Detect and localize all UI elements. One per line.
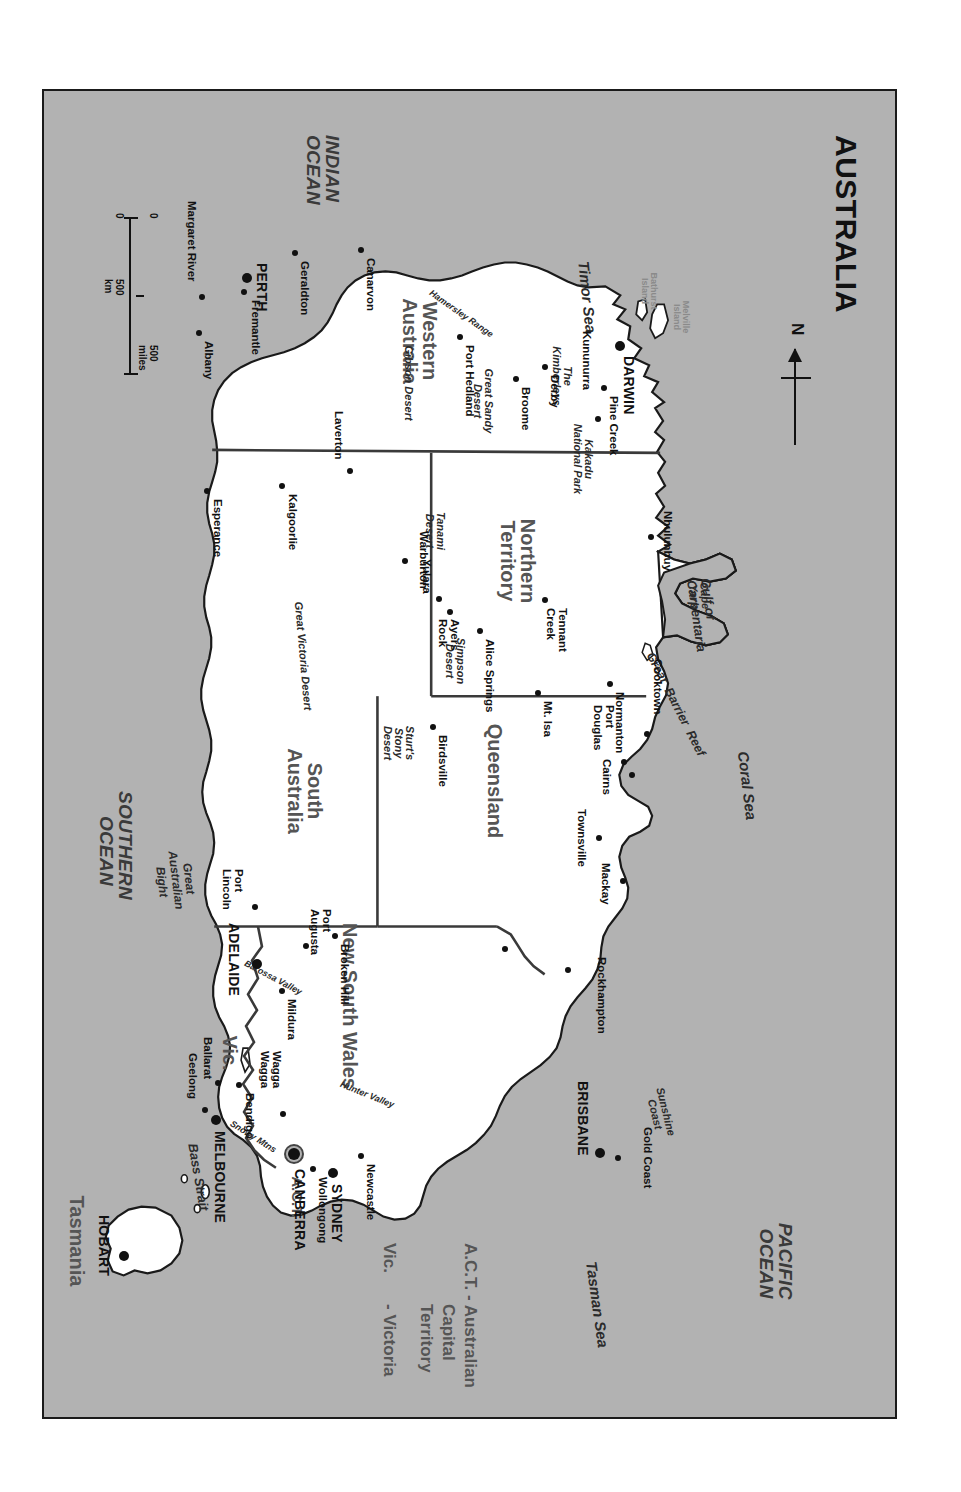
city-label-gold-coast: Gold Coast <box>641 1127 653 1188</box>
city-dot-esperance <box>204 488 210 494</box>
sea-label-great-australian-bight: GreatAustralianBight <box>151 849 198 912</box>
city-dot-pine-creek <box>601 385 607 391</box>
city-dot-mackay <box>620 878 626 884</box>
city-dot-wagga-wagga <box>280 1111 286 1117</box>
city-dot-perth <box>242 273 252 283</box>
city-label-canarvon: Canarvon <box>364 258 376 311</box>
city-dot-port-douglas <box>621 759 627 765</box>
city-dot-derby <box>542 364 548 370</box>
city-label-wagga-wagga: WaggaWagga <box>259 1051 283 1088</box>
city-dot-tennant-creek <box>542 597 548 603</box>
city-dot-wollongong <box>310 1166 316 1172</box>
city-label-pine-creek: Pine Creek <box>607 396 619 455</box>
map-page: AUSTRALIA N INDIANOCEAN PACIFIC OCEAN SO… <box>0 0 961 1492</box>
feature-label-melville-island: MelvilleIsland <box>672 301 690 334</box>
city-label-sydney: SYDNEY <box>330 1184 344 1243</box>
north-arrow-label: N <box>787 323 807 335</box>
city-label-mildura: Mildura <box>285 999 297 1040</box>
city-label-broken-hill: Broken Hill <box>338 944 350 1005</box>
north-arrow-tick <box>781 377 811 379</box>
city-dot-fremantle <box>241 289 247 295</box>
city-label-adelaide: ADELAIDE <box>227 923 241 996</box>
city-label-geelong: Geelong <box>186 1053 198 1099</box>
city-dot-ballarat <box>215 1080 221 1086</box>
scale-label-miles-max: 500 miles <box>137 345 159 371</box>
ocean-label-southern: SOUTHERN OCEAN <box>96 791 135 900</box>
city-label-cooktown: Cooktown <box>651 659 663 715</box>
state-label-victoria: Vic. <box>220 1035 240 1070</box>
australia-outline-svg <box>44 91 895 1417</box>
state-label-queensland: Queensland <box>485 724 505 838</box>
city-dot-canarvon <box>358 247 364 253</box>
city-label-derby: Derby <box>548 375 560 408</box>
city-dot-townsville <box>596 835 602 841</box>
north-arrow-shaft <box>794 349 796 445</box>
city-label-bendigo: Bendigo <box>243 1093 255 1139</box>
city-label-darwin: DARWIN <box>622 356 636 415</box>
city-label-port-douglas: PortDouglas <box>592 705 616 750</box>
city-dot-newcastle <box>358 1153 364 1159</box>
city-dot-rockhampton-main <box>565 967 571 973</box>
tasmania-shape <box>106 1207 183 1276</box>
city-dot-alice-springs <box>477 628 483 634</box>
city-label-ballarat: Ballarat <box>201 1037 213 1079</box>
city-label-melbourne: MELBOURNE <box>213 1131 227 1223</box>
scale-label-km-zero: 0 <box>114 213 125 219</box>
city-label-brisbane: BRISBANE <box>576 1081 590 1156</box>
city-dot-kununurra <box>595 416 601 422</box>
city-label-mackay: Mackay <box>599 863 611 905</box>
city-dot-port-hedland <box>457 334 463 340</box>
city-label-townsville: Townsville <box>575 809 587 867</box>
city-dot-birdsville <box>430 724 436 730</box>
city-label-laverton: Laverton <box>332 411 344 460</box>
city-dot-nhulunbuy <box>648 534 654 540</box>
city-label-yulara: Yulara <box>420 559 432 594</box>
feature-label-bathurst-island: BathurstIsland <box>640 272 658 309</box>
scale-label-miles-zero: 0 <box>148 213 159 219</box>
city-dot-normanton <box>607 681 613 687</box>
feature-label-cape-york: CapeYork <box>687 582 711 610</box>
city-label-ayers-rock: AyersRock <box>437 619 461 651</box>
state-label-northern-territory: NorthernTerritory <box>498 519 539 603</box>
city-dot-warburton <box>402 558 408 564</box>
city-label-geraldton: Geraldton <box>298 261 310 315</box>
city-dot-rockhampton <box>502 946 508 952</box>
city-label-esperance: Esperance <box>211 499 223 557</box>
ocean-label-pacific: PACIFIC OCEAN <box>756 1223 795 1300</box>
city-dot-mildura <box>279 988 285 994</box>
city-label-newcastle: Newcastle <box>364 1164 376 1220</box>
city-dot-sydney <box>328 1168 338 1178</box>
city-label-port-lincoln: PortLincoln <box>221 869 245 910</box>
legend-act-line3: Territory <box>417 1304 436 1373</box>
city-label-broome: Broome <box>519 387 531 430</box>
city-dot-darwin <box>615 341 625 351</box>
city-dot-laverton <box>347 468 353 474</box>
city-label-fremantle: Fremantle <box>249 300 261 355</box>
city-dot-melbourne <box>211 1115 221 1125</box>
ocean-label-indian: INDIANOCEAN <box>303 135 342 205</box>
city-dot-geelong <box>202 1107 208 1113</box>
city-label-margaret-river: Margaret River <box>185 201 197 282</box>
city-dot-port-lincoln <box>252 904 258 910</box>
city-dot-geraldton <box>292 250 298 256</box>
city-dot-ayers-rock <box>447 609 453 615</box>
bass-strait-island-3 <box>181 1175 187 1183</box>
city-dot-cairns <box>629 772 635 778</box>
city-label-albany: Albany <box>202 341 214 379</box>
city-dot-adelaide <box>252 959 262 969</box>
city-dot-albany <box>196 330 202 336</box>
city-label-kalgoorlie: Kalgoorlie <box>286 494 298 550</box>
city-dot-bendigo <box>236 1082 242 1088</box>
map-title: AUSTRALIA <box>830 135 861 313</box>
city-label-port-augusta: PortAugusta <box>309 909 333 955</box>
city-label-nhulunbuy: Nhulunbuy <box>661 511 673 571</box>
feature-label-gibson-desert: Gibson Desert <box>402 345 413 420</box>
feature-label-sturts-stony-desert: Sturt'sStonyDesert <box>381 726 415 760</box>
legend-vic-line2: - Victoria <box>380 1304 399 1376</box>
map-frame: AUSTRALIA N INDIANOCEAN PACIFIC OCEAN SO… <box>42 89 897 1419</box>
city-label-mt-isa: Mt. Isa <box>541 701 553 737</box>
city-label-rockhampton-main: Rockhampton <box>595 957 607 1034</box>
north-arrow-head <box>788 348 802 362</box>
city-dot-broome <box>513 376 519 382</box>
city-dot-mt-isa <box>535 690 541 696</box>
